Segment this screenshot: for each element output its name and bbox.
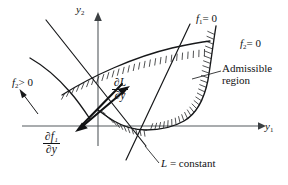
diagram-graphics	[0, 0, 288, 185]
y1-axis-label: y1	[265, 121, 273, 133]
f2-positive-arrow-shaft	[23, 94, 38, 114]
L-constant-label: L = constant	[161, 158, 216, 170]
f2-positive-arrow-group	[20, 89, 39, 114]
gradient-f1-numerator: ∂f₁	[43, 131, 60, 144]
f2-zero-label-rest: = 0	[246, 37, 260, 49]
y2-axis-label-sub: 2	[81, 9, 84, 16]
gradient-f1-fraction: ∂f₁ ∂y	[43, 131, 60, 155]
f2-positive-curve	[30, 58, 90, 119]
y2-axis-label: y2	[76, 4, 84, 16]
gradient-L-numerator: ∂L	[112, 77, 128, 90]
gradient-L-label: ∂L ∂y	[112, 77, 128, 101]
gradient-L-fraction: ∂L ∂y	[112, 77, 128, 101]
upper-boundary-curve-group	[61, 41, 210, 100]
gradient-L-denominator: ∂y	[112, 90, 128, 102]
diagram-canvas: y2 y1 f1= 0 f2= 0 f2> 0 Admissible regio…	[0, 0, 288, 185]
gradient-f1-label: ∂f₁ ∂y	[43, 131, 60, 155]
y1-axis-label-sub: 1	[270, 126, 273, 133]
f2-zero-label: f2= 0	[240, 38, 261, 50]
upper-boundary-hatching	[61, 49, 204, 100]
f1-zero-label-rest: = 0	[202, 12, 216, 24]
second-constraint-line	[126, 24, 190, 160]
f1-zero-label: f1= 0	[196, 13, 217, 25]
f2-positive-label: f2> 0	[12, 77, 33, 89]
vertical-axis-arrowhead	[94, 12, 102, 21]
L-constant-label-text: = constant	[167, 157, 215, 169]
f2-positive-label-rest: > 0	[18, 76, 32, 88]
gradient-f1-denominator: ∂y	[43, 144, 60, 156]
admissible-region-label: Admissible region	[222, 63, 286, 87]
lower-boundary-curve	[98, 110, 146, 130]
L-constant-leader	[145, 146, 159, 163]
